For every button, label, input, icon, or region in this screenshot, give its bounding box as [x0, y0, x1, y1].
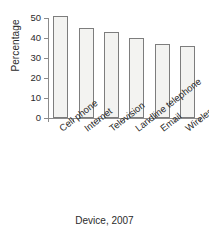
bar-chart-figure: Percentage 01020304050 Cell phoneInterne… — [0, 0, 209, 236]
y-tick-label: 50 — [30, 12, 41, 23]
y-tick-label: 30 — [30, 52, 41, 63]
y-tick-label: 40 — [30, 32, 41, 43]
y-tick-mark — [44, 18, 48, 19]
y-axis-line — [48, 18, 49, 118]
y-tick-label: 0 — [36, 112, 41, 123]
y-tick-mark — [44, 38, 48, 39]
y-tick-label: 10 — [30, 92, 41, 103]
y-tick-label: 20 — [30, 72, 41, 83]
x-tick-mark — [48, 118, 49, 122]
x-axis-title: Device, 2007 — [0, 215, 209, 226]
y-axis-title: Percentage — [10, 1, 21, 91]
y-tick-mark — [44, 78, 48, 79]
y-tick-mark — [44, 58, 48, 59]
bar — [53, 16, 68, 118]
y-tick-mark — [44, 98, 48, 99]
